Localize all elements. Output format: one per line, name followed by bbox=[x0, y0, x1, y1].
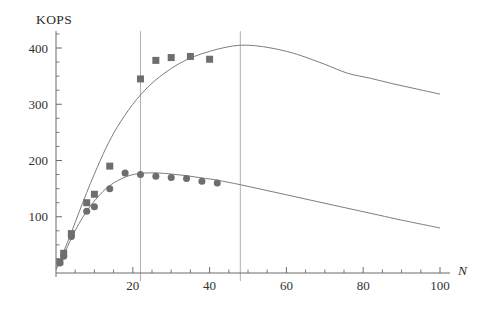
data-point-circle bbox=[137, 171, 144, 178]
x-axis-tick-label: 40 bbox=[203, 278, 216, 293]
data-point-circle bbox=[83, 208, 90, 215]
data-point-square bbox=[137, 75, 144, 82]
fit-curve-lower-fit bbox=[56, 173, 440, 270]
data-point-circle bbox=[56, 259, 63, 266]
fit-curve-upper-fit bbox=[56, 45, 440, 268]
x-axis-tick-label: 60 bbox=[280, 278, 293, 293]
data-point-square bbox=[168, 54, 175, 61]
x-axis-tick-label: 20 bbox=[126, 278, 139, 293]
data-point-square bbox=[152, 57, 159, 64]
y-axis-tick-label: 300 bbox=[29, 97, 49, 112]
data-point-circle bbox=[152, 173, 159, 180]
data-point-circle bbox=[68, 233, 75, 240]
y-axis-title: KOPS bbox=[36, 12, 72, 27]
y-axis-tick-label: 200 bbox=[29, 153, 49, 168]
kops-vs-n-chart: 20406080100100200300400KOPSN bbox=[0, 0, 486, 311]
data-point-square bbox=[206, 56, 213, 63]
data-point-square bbox=[91, 191, 98, 198]
data-point-circle bbox=[122, 169, 129, 176]
x-axis-tick-label: 100 bbox=[430, 278, 450, 293]
data-point-circle bbox=[60, 253, 67, 260]
y-axis-tick-label: 100 bbox=[29, 209, 49, 224]
x-axis-title: N bbox=[457, 263, 468, 278]
data-point-circle bbox=[106, 185, 113, 192]
data-point-square bbox=[187, 53, 194, 60]
data-point-circle bbox=[198, 178, 205, 185]
data-point-circle bbox=[168, 174, 175, 181]
data-point-circle bbox=[214, 180, 221, 187]
chart-figure: 20406080100100200300400KOPSN bbox=[0, 0, 486, 311]
data-point-circle bbox=[91, 203, 98, 210]
y-axis-tick-label: 400 bbox=[29, 41, 49, 56]
data-point-square bbox=[83, 199, 90, 206]
x-axis-tick-label: 80 bbox=[357, 278, 370, 293]
data-point-square bbox=[106, 163, 113, 170]
data-point-circle bbox=[183, 175, 190, 182]
